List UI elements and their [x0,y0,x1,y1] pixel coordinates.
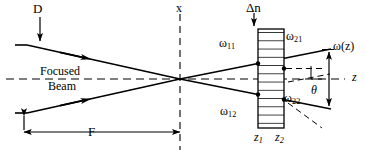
omega-12-label: ω12 [220,105,236,119]
omega-21-label: ω21 [286,30,302,44]
omega-22-subscript: 22 [292,97,301,106]
axis-label-z: z [352,71,357,83]
omega-22-label: ω22 [284,92,300,106]
index-change-label: Δn [246,1,261,14]
omega-z-label: ω(z) [333,40,354,52]
omega-22-symbol: ω [284,91,292,105]
focal-length-measure [24,116,180,132]
omega-11-symbol: ω [219,36,227,50]
omega-11-subscript: 11 [227,42,235,51]
omega-11-label: ω11 [219,37,235,51]
angle-theta-label: θ [311,84,317,96]
z2-subscript: 2 [280,136,284,145]
optics-diagram-figure: D x Δn ω11 ω21 ω(z) Focused Beam θ z ω22… [0,0,366,159]
axis-label-x: x [176,2,182,14]
omega-12-subscript: 12 [228,110,237,119]
boundary-z1-label: z1 [254,131,263,145]
boundary-z2-label: z2 [275,131,284,145]
grating-slab [258,29,284,128]
aperture-label-D: D [33,2,42,15]
focal-length-label: F [88,125,95,138]
focused-beam-label-line1: Focused [40,65,80,77]
omega-z-measure [322,50,334,107]
omega-21-symbol: ω [286,29,294,43]
z1-subscript: 1 [259,136,263,145]
focused-beam-label-line2: Beam [48,80,76,92]
omega-21-subscript: 21 [294,35,303,44]
omega-12-symbol: ω [220,104,228,118]
